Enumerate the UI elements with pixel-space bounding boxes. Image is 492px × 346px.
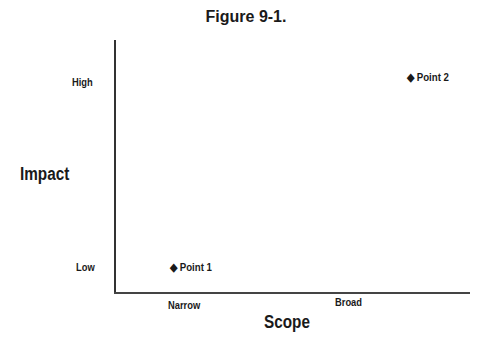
x-axis-line: [114, 292, 470, 294]
data-point-2: ◆ Point 2: [407, 71, 449, 84]
chart-title: Figure 9-1.: [0, 8, 492, 26]
y-tick-low: Low: [76, 261, 95, 273]
x-tick-broad: Broad: [335, 296, 362, 308]
data-point-1: ◆ Point 1: [170, 261, 212, 274]
y-axis-title: Impact: [20, 164, 69, 185]
x-tick-narrow: Narrow: [168, 299, 200, 311]
y-tick-high: High: [72, 76, 93, 88]
x-axis-title: Scope: [264, 312, 310, 333]
y-axis-line: [114, 40, 116, 293]
